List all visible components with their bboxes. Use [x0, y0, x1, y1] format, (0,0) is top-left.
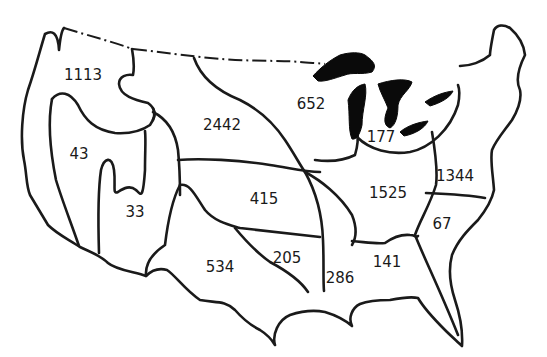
boundary-141-top [352, 235, 418, 243]
region-label-652: 652 [297, 95, 326, 113]
region-label-534: 534 [206, 258, 235, 276]
region-label-205: 205 [273, 249, 302, 267]
region-label-141: 141 [373, 253, 402, 271]
region-label-43: 43 [69, 145, 88, 163]
us-regions-map: 1113 43 33 2442 652 177 415 1525 1344 67… [0, 0, 547, 357]
boundary-33-534 [146, 185, 180, 276]
lake-superior [313, 53, 374, 81]
boundary-286-1525 [305, 172, 355, 245]
region-label-415: 415 [250, 190, 279, 208]
region-label-177: 177 [367, 128, 396, 146]
region-label-1113: 1113 [64, 66, 102, 84]
boundary-1344-67 [426, 193, 485, 198]
lake-michigan [348, 84, 366, 139]
region-label-1525: 1525 [369, 184, 407, 202]
map-canvas: 1113 43 33 2442 652 177 415 1525 1344 67… [0, 0, 547, 357]
region-label-1344: 1344 [436, 167, 474, 185]
boundary-33-loop [98, 131, 145, 253]
lake-ontario [425, 91, 453, 106]
region-labels: 1113 43 33 2442 652 177 415 1525 1344 67… [64, 66, 474, 287]
region-label-286: 286 [326, 269, 355, 287]
boundary-43-west [50, 99, 79, 246]
lake-huron [378, 80, 412, 128]
region-label-33: 33 [125, 203, 144, 221]
boundary-205-286 [305, 172, 324, 291]
lake-erie [400, 121, 428, 136]
boundary-33-2442 [153, 112, 180, 195]
region-label-2442: 2442 [203, 116, 241, 134]
region-label-67: 67 [432, 215, 451, 233]
